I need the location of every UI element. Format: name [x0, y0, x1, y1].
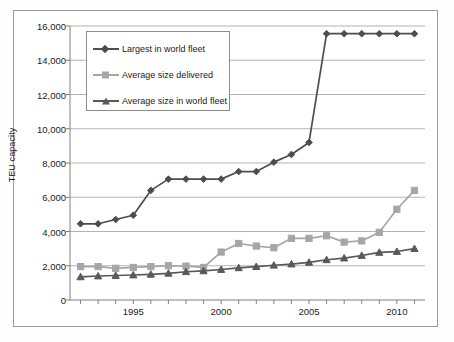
y-tick-label: 14,000	[37, 55, 66, 66]
data-point	[323, 233, 329, 239]
data-point	[165, 263, 171, 269]
y-tick-label: 6,000	[42, 192, 66, 203]
data-point	[394, 30, 401, 37]
legend-label: Average size delivered	[122, 70, 213, 80]
data-point	[235, 168, 242, 175]
data-point	[77, 264, 83, 270]
data-point	[112, 216, 119, 223]
legend-marker-triangle	[102, 98, 110, 105]
data-point	[376, 30, 383, 37]
data-point	[358, 30, 365, 37]
y-tick-label: 2,000	[42, 260, 66, 271]
data-point	[341, 239, 347, 245]
data-point	[236, 240, 242, 246]
x-tick-label: 2005	[298, 306, 319, 317]
x-axis-tick-labels: 1995200020052010	[0, 306, 454, 322]
legend-item-3[interactable]: Average size in world fleet	[93, 95, 227, 107]
legend-swatch-line	[93, 48, 119, 50]
legend-swatch-line	[93, 100, 119, 102]
data-point	[341, 30, 348, 37]
y-tick-label: 10,000	[37, 123, 66, 134]
data-point	[411, 30, 418, 37]
y-axis-tick-labels: 02,0004,0006,0008,00010,00012,00014,0001…	[24, 0, 66, 342]
figure: 02,0004,0006,0008,00010,00012,00014,0001…	[0, 0, 454, 342]
x-tick-label: 2000	[211, 306, 232, 317]
data-point	[253, 168, 260, 175]
y-tick-label: 16,000	[37, 21, 66, 32]
data-point	[77, 220, 84, 227]
data-point	[376, 229, 382, 235]
legend-item-1[interactable]: Largest in world fleet	[93, 43, 205, 55]
legend-swatch-line	[93, 74, 119, 76]
y-tick-marks	[66, 26, 70, 300]
data-point	[306, 235, 312, 241]
y-axis-title: TEU capacity	[7, 110, 17, 200]
series-3	[77, 245, 418, 280]
data-point	[200, 176, 207, 183]
y-tick-label: 0	[61, 295, 66, 306]
x-tick-marks	[81, 300, 415, 304]
data-point	[288, 235, 294, 241]
x-tick-label: 2010	[386, 306, 407, 317]
data-point	[130, 264, 136, 270]
data-point	[95, 264, 101, 270]
data-point	[359, 238, 365, 244]
data-point	[411, 187, 417, 193]
data-point	[394, 206, 400, 212]
legend-label: Average size in world fleet	[122, 96, 227, 106]
data-point	[183, 176, 190, 183]
data-point	[253, 243, 259, 249]
data-point	[218, 176, 225, 183]
data-point	[218, 249, 224, 255]
legend-marker-diamond	[101, 45, 109, 53]
chart-legend: Largest in world fleetAverage size deliv…	[86, 31, 230, 111]
data-point	[271, 159, 278, 166]
y-tick-label: 8,000	[42, 158, 66, 169]
data-point	[323, 30, 330, 37]
legend-marker-square	[102, 72, 109, 79]
data-point	[271, 245, 277, 251]
y-tick-label: 4,000	[42, 226, 66, 237]
y-tick-label: 12,000	[37, 89, 66, 100]
x-tick-label: 1995	[123, 306, 144, 317]
data-point	[148, 264, 154, 270]
data-point	[95, 220, 102, 227]
legend-label: Largest in world fleet	[122, 44, 205, 54]
series-2	[77, 187, 417, 271]
legend-item-2[interactable]: Average size delivered	[93, 69, 213, 81]
data-point	[113, 265, 119, 271]
